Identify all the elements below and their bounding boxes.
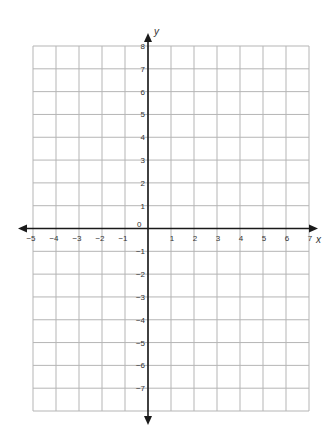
y-tick-label: −6: [136, 361, 146, 370]
y-tick-label: 5: [141, 110, 146, 119]
x-tick-label: 6: [285, 234, 290, 243]
x-tick-label: 3: [216, 234, 221, 243]
y-tick-label: 2: [141, 179, 146, 188]
y-tick-label: 6: [141, 88, 146, 97]
y-tick-label: 3: [141, 156, 146, 165]
x-tick-label: −3: [72, 234, 82, 243]
x-axis-right-arrow-icon: [309, 225, 318, 233]
x-tick-label: −5: [26, 234, 36, 243]
coordinate-plane: −5−4−3−2−1123456787654321−1−2−3−4−5−6−7 …: [0, 0, 336, 443]
x-axis-label: x: [315, 234, 322, 245]
x-tick-label: −2: [95, 234, 105, 243]
y-tick-label: 1: [141, 202, 146, 211]
x-tick-label: −4: [49, 234, 59, 243]
y-tick-label: 4: [141, 133, 146, 142]
origin-label: 0: [137, 220, 142, 229]
x-axis-left-arrow-icon: [18, 225, 27, 233]
y-axis-up-arrow-icon: [144, 33, 152, 42]
y-tick-label: −3: [136, 293, 146, 302]
y-tick-label: −5: [136, 339, 146, 348]
x-tick-label: 1: [170, 234, 175, 243]
x-tick-label: 5: [262, 234, 267, 243]
x-tick-label: 4: [239, 234, 244, 243]
x-tick-label: −1: [118, 234, 128, 243]
y-tick-label: −7: [136, 384, 146, 393]
y-tick-label: −4: [136, 316, 146, 325]
y-axis-label: y: [153, 26, 160, 37]
y-tick-label: 7: [141, 65, 146, 74]
x-tick-label: 7: [308, 234, 313, 243]
y-axis-down-arrow-icon: [144, 416, 152, 425]
y-tick-label: −2: [136, 270, 146, 279]
x-tick-label: 2: [193, 234, 198, 243]
y-tick-label: −1: [136, 247, 146, 256]
y-tick-label: 8: [141, 42, 146, 51]
tick-labels: −5−4−3−2−1123456787654321−1−2−3−4−5−6−7: [26, 42, 312, 393]
